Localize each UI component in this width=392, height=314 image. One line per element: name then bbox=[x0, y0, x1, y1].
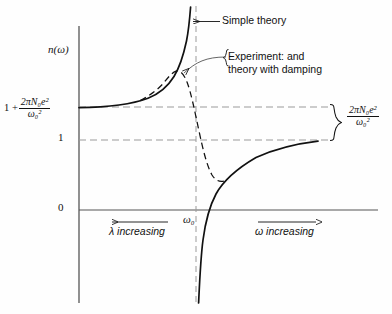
leader-experiment bbox=[184, 57, 226, 73]
curve-experiment-damped bbox=[140, 71, 228, 181]
y-tick-label-one: 1 bbox=[58, 132, 64, 144]
y-tick-denominator: ω₀² bbox=[26, 109, 44, 120]
x-tick-label-omega0: ω₀ bbox=[183, 214, 195, 226]
y-tick-fraction: 2πN₀e² ω₀² bbox=[19, 97, 51, 119]
y-axis-label: n(ω) bbox=[48, 44, 69, 56]
y-tick-label-n0: 1 + 2πN₀e² ω₀² bbox=[4, 97, 51, 119]
caption-omega-increasing: ω increasing bbox=[255, 226, 314, 237]
y-axis-label-text: n(ω) bbox=[48, 43, 69, 55]
caption-lambda-increasing: λ increasing bbox=[109, 226, 165, 237]
y-tick-label-zero: 0 bbox=[58, 202, 64, 214]
right-formula-denominator: ω₀² bbox=[354, 117, 372, 128]
right-formula-fraction: 2πN₀e² ω₀² bbox=[347, 105, 379, 127]
curve-simple-theory-left bbox=[79, 7, 191, 108]
annotation-experiment-line1: Experiment: and bbox=[228, 50, 322, 63]
annotation-simple-theory: Simple theory bbox=[222, 15, 286, 26]
annotation-experiment-damping: Experiment: and theory with damping bbox=[228, 50, 322, 76]
annotation-experiment-line2: theory with damping bbox=[228, 63, 322, 76]
brace-right-gap bbox=[330, 105, 342, 141]
y-tick-numerator: 2πN₀e² bbox=[19, 97, 51, 108]
right-formula-numerator: 2πN₀e² bbox=[347, 105, 379, 116]
y-tick-lead-text: 1 + bbox=[4, 102, 18, 113]
right-gap-formula: 2πN₀e² ω₀² bbox=[346, 105, 380, 127]
dispersion-figure: n(ω) 1 + 2πN₀e² ω₀² 1 0 ω₀ Simple theory… bbox=[0, 0, 392, 314]
